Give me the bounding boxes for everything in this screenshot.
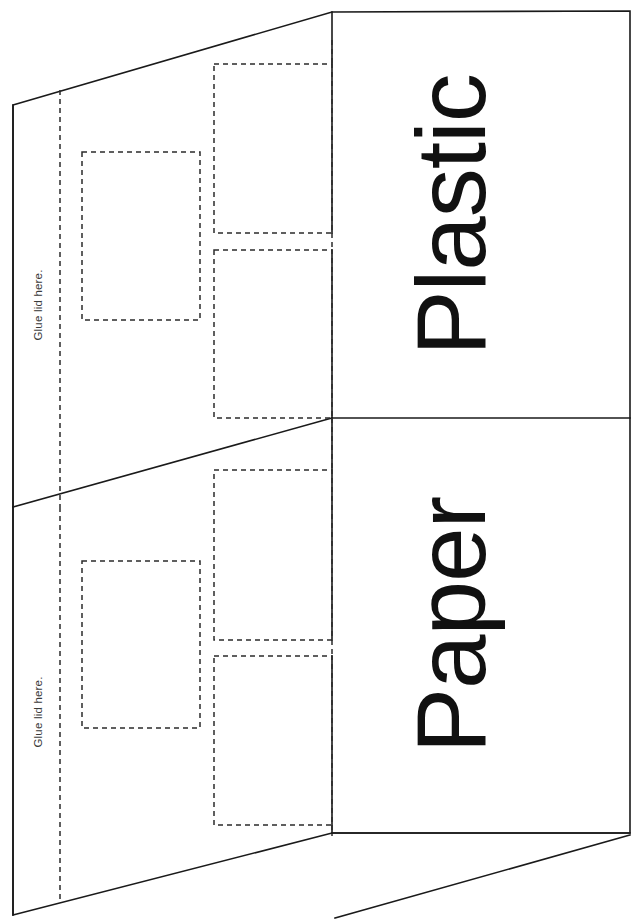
glue-tab-label-paper: Glue lid here.: [32, 676, 44, 747]
outer-outline-path: [13, 11, 630, 915]
mid-slant-line: [13, 418, 332, 507]
bottom-slant-to-right: [335, 835, 630, 918]
plastic-small-window: [82, 152, 200, 320]
template-sheet: Plastic Paper Glue lid here. Glue lid he…: [0, 0, 633, 920]
panel-label-paper: Paper: [396, 496, 506, 753]
paper-tall-window-upper: [214, 470, 332, 640]
paper-tall-window-lower: [214, 656, 332, 825]
panel-label-plastic: Plastic: [396, 74, 506, 356]
paper-small-window: [82, 561, 200, 728]
glue-tab-label-plastic: Glue lid here.: [32, 269, 44, 340]
plastic-tall-window-upper: [214, 64, 332, 233]
plastic-tall-window-lower: [214, 250, 332, 418]
papercraft-diagram: Plastic Paper Glue lid here. Glue lid he…: [0, 0, 633, 920]
